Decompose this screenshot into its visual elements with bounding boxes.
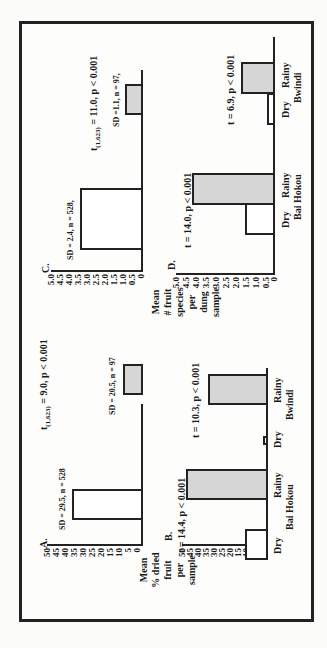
panel-a-y-axis bbox=[47, 544, 143, 546]
tick: 4.0 bbox=[192, 277, 201, 299]
panel-d-y-axis bbox=[176, 273, 275, 275]
tick: 0 bbox=[137, 274, 146, 296]
panel-letter-d: D. bbox=[166, 260, 177, 270]
panel-b-cat-bh-dry: Dry bbox=[272, 537, 284, 554]
label-line: fruit bbox=[162, 540, 174, 600]
panel-c-bar-bai-hokou bbox=[80, 188, 143, 250]
panel-d-cat-bw-rainy: Rainy bbox=[280, 62, 292, 88]
panel-d-bar-bwindi-rainy bbox=[241, 62, 275, 94]
panel-d-site-bh: Bai Hokou bbox=[292, 174, 304, 220]
panel-a-bar-bwindi bbox=[123, 364, 143, 395]
panel-letter-b: B. bbox=[163, 532, 174, 541]
tick: 2.0 bbox=[232, 277, 241, 299]
panel-a-stat: t(1,623) = 9.0, p < 0.001 bbox=[38, 339, 52, 430]
panel-d-bar-bwindi-dry bbox=[267, 93, 275, 125]
panel-b-bar-bai-hokou-rainy bbox=[186, 469, 268, 500]
stat-df: (1,623) bbox=[94, 127, 102, 147]
stat-t: t bbox=[88, 148, 99, 151]
tick: 5.0 bbox=[172, 277, 181, 299]
panel-c-stat: t(1,623) = 11.0, p < 0.001 bbox=[88, 56, 102, 151]
panel-b-cat-bw-dry: Dry bbox=[272, 431, 284, 448]
label-line: % dried bbox=[150, 540, 162, 600]
panel-b-cat-bw-rainy: Rainy bbox=[272, 377, 284, 403]
tick: 4.5 bbox=[182, 277, 191, 299]
panel-b-cat-bh-rainy: Rainy bbox=[272, 472, 284, 498]
panel-c-y-axis bbox=[51, 270, 143, 272]
panel-d-site-bw: Bwindi bbox=[292, 72, 304, 103]
panel-b-site-bw: Bwindi bbox=[284, 389, 296, 420]
panel-c-sd-bai-hokou: SD = 2.4, n = 528, bbox=[66, 200, 75, 260]
panel-b-bar-bai-hokou-dry bbox=[245, 529, 268, 560]
panel-c-bar-bwindi bbox=[125, 84, 143, 115]
panel-letter-c: C. bbox=[40, 263, 51, 273]
tick: 3.0 bbox=[212, 277, 221, 299]
tick: 0 bbox=[133, 548, 142, 570]
panel-d-cat-bw-dry: Dry bbox=[280, 101, 292, 118]
panel-b-bar-bwindi-rainy bbox=[208, 374, 268, 405]
panel-c-sd-bwindi: SD =1.1, n = 97, bbox=[112, 73, 121, 127]
tick: 3.5 bbox=[202, 277, 211, 299]
panel-b-stat-bwindi: t = 10.3, p < 0.001 bbox=[190, 363, 201, 438]
panel-b-bar-bwindi-dry bbox=[263, 436, 268, 445]
panel-a-sd-bwindi: SD = 20.5, n = 97 bbox=[108, 357, 117, 415]
panel-a-bar-bai-hokou bbox=[72, 489, 143, 520]
panel-d-stat-bai-hokou: t = 14.0, p < 0.001 bbox=[182, 173, 193, 248]
panel-d-bar-bai-hokou-rainy bbox=[192, 173, 275, 205]
panel-a-sd-bai-hokou: SD = 29.5, n = 528 bbox=[58, 468, 67, 530]
panel-d-cat-bh-dry: Dry bbox=[280, 211, 292, 228]
panel-d-stat-bwindi: t = 6.9, p < 0.001 bbox=[225, 55, 236, 125]
panel-d-cat-bh-rainy: Rainy bbox=[280, 172, 292, 198]
panel-d-bar-bai-hokou-dry bbox=[245, 203, 275, 235]
tick: 1.0 bbox=[252, 277, 261, 299]
panel-a-baseline bbox=[141, 404, 143, 546]
panel-b-stat-bai-hokou: t = 14.4, p < 0.001 bbox=[176, 478, 187, 553]
label-line: Mean bbox=[150, 272, 162, 332]
stat-df: (1,623) bbox=[44, 406, 52, 426]
tick: 0 bbox=[270, 277, 279, 299]
stat-t: t bbox=[38, 427, 49, 430]
figure-rotated: Mean % dried fruit per sample A. 50 45 4… bbox=[0, 0, 327, 648]
tick: 1.5 bbox=[242, 277, 251, 299]
panel-b-site-bh: Bai Hokou bbox=[284, 484, 296, 530]
tick: 2.5 bbox=[222, 277, 231, 299]
stat-value: = 9.0, p < 0.001 bbox=[38, 339, 49, 406]
stat-value: = 11.0, p < 0.001 bbox=[88, 56, 99, 127]
